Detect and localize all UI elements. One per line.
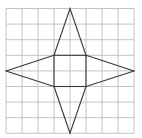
grid (6, 9, 134, 134)
grid-diagram (0, 0, 142, 138)
